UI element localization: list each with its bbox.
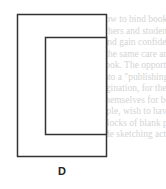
folded-page-diagram <box>0 0 166 189</box>
diagram-figure-d: ing how to bind books is a usef e teache… <box>0 0 166 189</box>
inner-fold-rect <box>46 38 107 135</box>
figure-label: D <box>54 165 70 177</box>
